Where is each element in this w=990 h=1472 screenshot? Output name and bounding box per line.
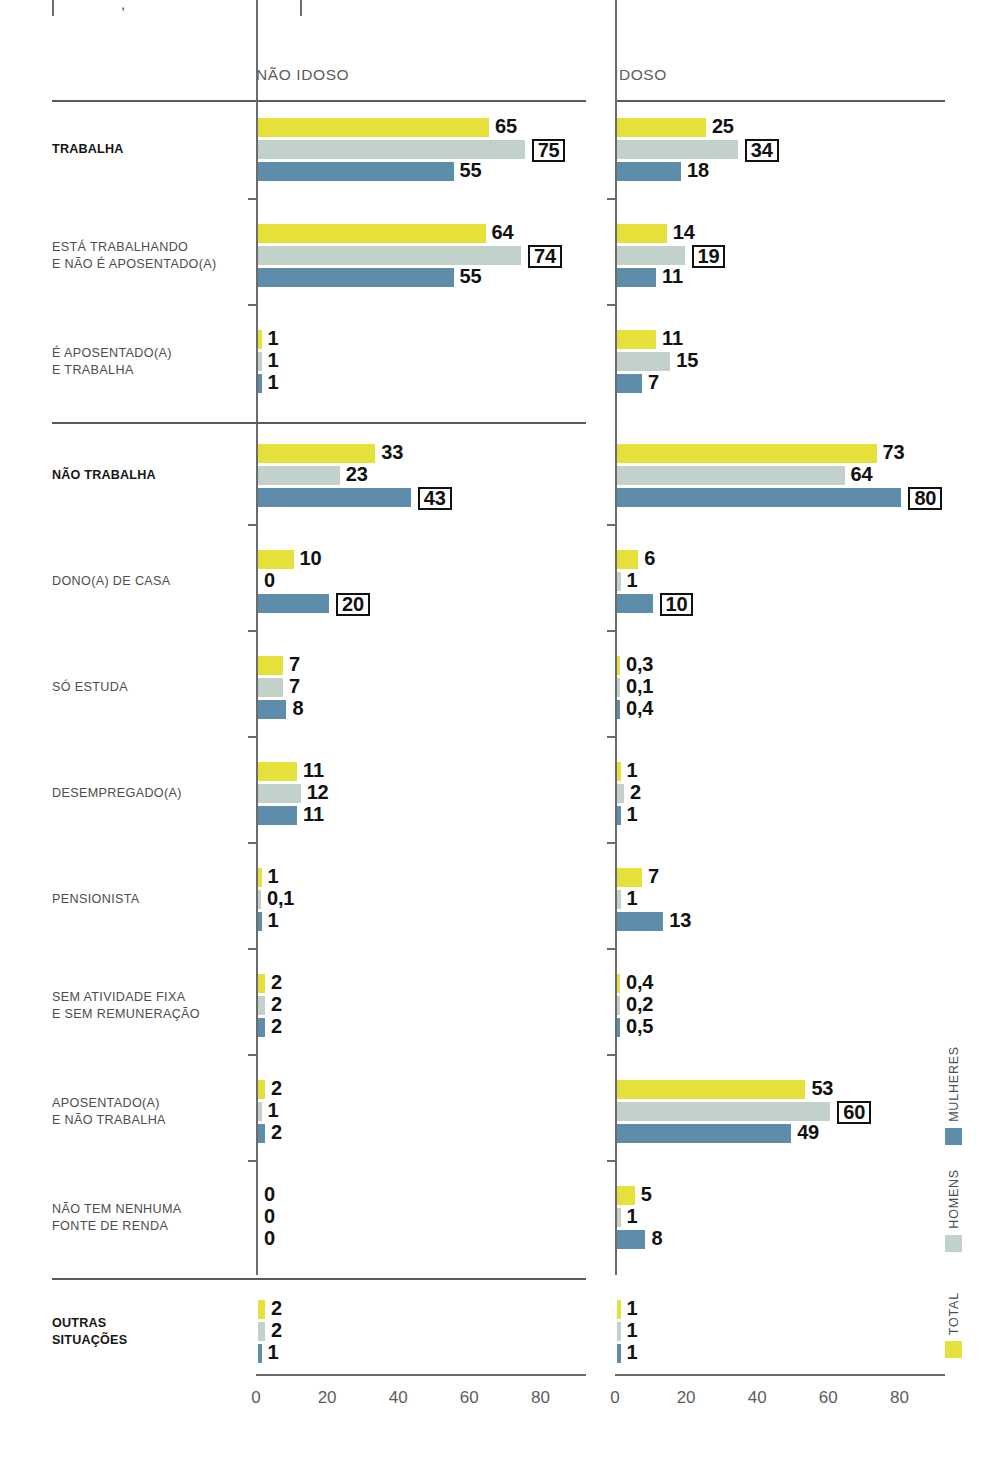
- bar-value-label: 64: [851, 465, 873, 484]
- bar-homens: [258, 1102, 262, 1121]
- category-label-line: E TRABALHA: [52, 362, 248, 379]
- axis-tick: [248, 304, 257, 306]
- bar-mulheres: [258, 1124, 265, 1143]
- category-label: DESEMPREGADO(A): [52, 785, 248, 802]
- bar-homens: [258, 678, 283, 697]
- bar-value-label: 2: [271, 1321, 282, 1340]
- chart-page: , NÃO IDOSO IDOSO TRABALHA657555253418ES…: [0, 0, 990, 1472]
- legend-item-homens[interactable]: HOMENS: [945, 1169, 962, 1252]
- bar-value-label: 8: [292, 699, 303, 718]
- bar-value-label: 8: [651, 1229, 662, 1248]
- bar-homens: [617, 678, 620, 697]
- bar-value-label: 80: [908, 487, 942, 510]
- bar-homens: [258, 996, 265, 1015]
- bar-value-label: 1: [268, 351, 279, 370]
- bar-value-label: 1: [268, 867, 279, 886]
- axis-tick: [607, 524, 616, 526]
- panel-header-nao-idoso: NÃO IDOSO: [256, 66, 349, 84]
- legend-label-mulheres: MULHERES: [947, 1046, 961, 1122]
- category-label-line: DESEMPREGADO(A): [52, 785, 248, 802]
- bar-value-label: 0,1: [267, 889, 294, 908]
- x-tick-label: 40: [389, 1388, 408, 1408]
- bar-value-label: 19: [692, 245, 726, 268]
- legend-label-total: TOTAL: [947, 1292, 961, 1335]
- bar-value-label: 33: [381, 443, 403, 462]
- bar-mulheres: [617, 268, 656, 287]
- bar-homens: [617, 1322, 621, 1341]
- bar-value-label: 1: [627, 1207, 638, 1226]
- legend-item-mulheres[interactable]: MULHERES: [945, 1046, 962, 1145]
- bar-value-label: 64: [492, 223, 514, 242]
- bar-value-label: 12: [307, 783, 329, 802]
- bar-total: [258, 974, 265, 993]
- category-label: TRABALHA: [52, 141, 248, 158]
- category-label: ESTÁ TRABALHANDOE NÃO É APOSENTADO(A): [52, 239, 248, 273]
- bar-mulheres: [617, 700, 620, 719]
- category-label: É APOSENTADO(A)E TRABALHA: [52, 345, 248, 379]
- bar-value-label: 1: [627, 1321, 638, 1340]
- bar-mulheres: [617, 806, 621, 825]
- category-label-line: DONO(A) DE CASA: [52, 573, 248, 590]
- bar-mulheres: [258, 700, 286, 719]
- bar-value-label: 0,4: [626, 699, 653, 718]
- bar-mulheres: [617, 374, 642, 393]
- bar-value-label: 73: [883, 443, 905, 462]
- panel-header-idoso: IDOSO: [614, 66, 667, 84]
- bar-value-label: 7: [289, 655, 300, 674]
- bar-value-label: 2: [271, 1123, 282, 1142]
- bar-value-label: 43: [418, 487, 452, 510]
- bar-homens: [617, 996, 620, 1015]
- bar-value-label: 1: [268, 1343, 279, 1362]
- bar-value-label: 75: [532, 139, 566, 162]
- axis-tick: [248, 630, 257, 632]
- x-axis-right: [615, 1374, 945, 1376]
- category-label-line: APOSENTADO(A): [52, 1095, 248, 1112]
- bar-value-label: 1: [627, 761, 638, 780]
- bar-homens: [258, 784, 301, 803]
- bar-value-label: 25: [712, 117, 734, 136]
- bar-total: [258, 330, 262, 349]
- bar-value-label: 0: [264, 571, 275, 590]
- plot-top-rule-left: [52, 100, 586, 102]
- category-label-line: E SEM REMUNERAÇÃO: [52, 1006, 248, 1023]
- bar-mulheres: [258, 806, 297, 825]
- plot-top-rule-right: [615, 100, 945, 102]
- bar-homens: [617, 572, 621, 591]
- bar-homens: [258, 1322, 265, 1341]
- axis-tick: [248, 842, 257, 844]
- bar-value-label: 0,2: [626, 995, 653, 1014]
- bar-value-label: 2: [271, 1079, 282, 1098]
- bar-total: [617, 974, 620, 993]
- bar-homens: [617, 466, 845, 485]
- legend-item-total[interactable]: TOTAL: [945, 1292, 962, 1358]
- bar-value-label: 1: [627, 1343, 638, 1362]
- bar-value-label: 1: [627, 571, 638, 590]
- x-tick-label: 0: [610, 1388, 619, 1408]
- bar-value-label: 10: [660, 593, 694, 616]
- bar-homens: [258, 890, 261, 909]
- category-label-line: É APOSENTADO(A): [52, 345, 248, 362]
- category-label-line: E NÃO É APOSENTADO(A): [52, 256, 248, 273]
- bar-value-label: 5: [641, 1185, 652, 1204]
- bar-value-label: 11: [662, 329, 683, 348]
- category-label-line: FONTE DE RENDA: [52, 1218, 248, 1235]
- category-label-line: PENSIONISTA: [52, 891, 248, 908]
- x-tick-label: 80: [890, 1388, 909, 1408]
- bar-total: [617, 1186, 635, 1205]
- category-label-line: SEM ATIVIDADE FIXA: [52, 989, 248, 1006]
- category-label-line: NÃO TEM NENHUMA: [52, 1201, 248, 1218]
- bar-total: [617, 118, 706, 137]
- bar-total: [617, 762, 621, 781]
- bar-value-label: 60: [837, 1101, 871, 1124]
- bar-value-label: 1: [268, 329, 279, 348]
- category-label-line: NÃO TRABALHA: [52, 467, 248, 484]
- bar-total: [617, 868, 642, 887]
- bar-total: [617, 1300, 621, 1319]
- bar-value-label: 0: [264, 1207, 275, 1226]
- category-label-line: SITUAÇÕES: [52, 1332, 248, 1349]
- bar-value-label: 7: [289, 677, 300, 696]
- bar-value-label: 6: [644, 549, 655, 568]
- bar-total: [258, 762, 297, 781]
- bar-mulheres: [258, 594, 329, 613]
- x-tick-label: 20: [677, 1388, 696, 1408]
